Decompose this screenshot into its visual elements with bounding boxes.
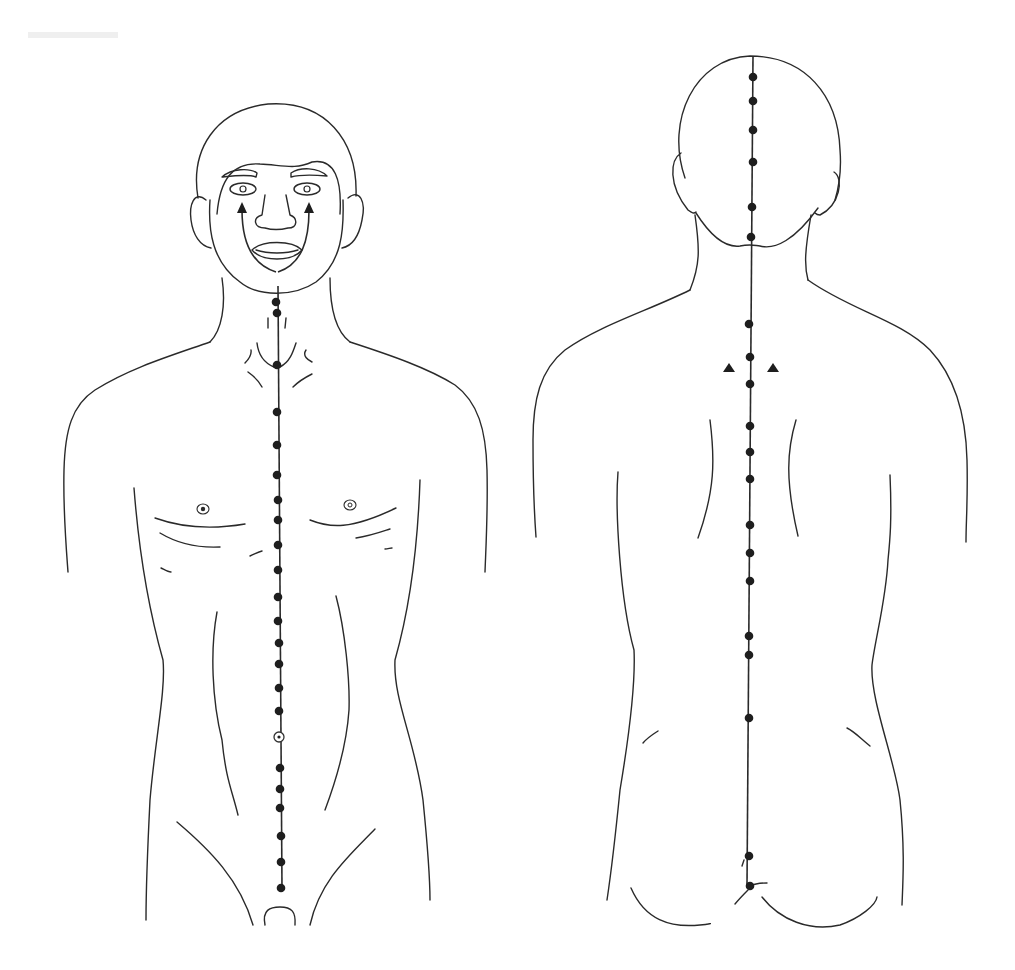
front-hairline: [217, 162, 340, 214]
acupoint-dot-icon: [749, 158, 758, 167]
acupoint-dot-icon: [276, 804, 285, 813]
acupoint-dot-icon: [748, 203, 757, 212]
nose: [256, 195, 296, 230]
left-nipple: [197, 504, 209, 514]
left-arrow-head-icon: [237, 202, 247, 213]
acupoint-dot-icon: [746, 380, 755, 389]
acupoint-dot-icon: [277, 884, 286, 893]
back-acupoints: [745, 73, 758, 891]
acupoint-dot-icon: [276, 764, 285, 773]
front-left-torso-side: [134, 488, 164, 920]
back-neck-right: [806, 215, 811, 280]
right-scapula-line: [789, 420, 798, 536]
left-ear: [191, 197, 211, 248]
acupoint-dot-icon: [747, 233, 756, 242]
acupoint-dot-icon: [745, 714, 754, 723]
right-inguinal-line: [310, 829, 375, 925]
left-eyebrow: [222, 170, 257, 177]
front-neck-right: [330, 278, 350, 342]
acupoint-dot-icon: [746, 475, 755, 484]
back-left-shoulder-arm: [533, 290, 690, 537]
acupoint-dot-icon: [745, 320, 754, 329]
acupoint-dot-icon: [273, 408, 282, 417]
abdomen-right-line: [325, 596, 349, 810]
acupoint-dot-icon: [274, 566, 283, 575]
back-left-ear: [673, 153, 696, 213]
left-hip-crease: [643, 731, 658, 743]
abdomen-left-line: [213, 612, 238, 815]
front-open-acupoints: [274, 732, 284, 742]
acupoint-dot-icon: [273, 471, 282, 480]
acupoint-dot-icon: [274, 496, 283, 505]
face-arrows: [237, 202, 314, 272]
acupoint-dot-icon: [746, 422, 755, 431]
acupoint-open-center-icon: [277, 735, 280, 738]
acupoint-dot-icon: [274, 516, 283, 525]
back-meridian-line: [747, 56, 753, 886]
right-arrow-head-icon: [304, 202, 314, 213]
left-inguinal-line: [177, 822, 253, 925]
right-eye: [294, 183, 320, 195]
left-eye: [230, 183, 256, 195]
acupoint-dot-icon: [275, 707, 284, 716]
right-nipple: [344, 500, 356, 510]
front-left-shoulder-arm: [64, 342, 210, 572]
acupoint-dot-icon: [745, 852, 754, 861]
acupoint-dot-icon: [745, 651, 754, 660]
acupoint-dot-icon: [272, 298, 281, 307]
right-ear: [342, 195, 363, 248]
acupoint-dot-icon: [273, 441, 282, 450]
triangle-marker-icon: [723, 363, 735, 372]
acupoint-dot-icon: [749, 126, 758, 135]
front-face-outline: [210, 200, 344, 293]
acupoint-dot-icon: [746, 577, 755, 586]
acupoint-dot-icon: [274, 541, 283, 550]
front-neck-left: [210, 278, 224, 342]
acupoint-dot-icon: [277, 858, 286, 867]
back-neck-left: [690, 215, 698, 290]
mouth: [252, 243, 302, 260]
acupoint-dot-icon: [273, 361, 282, 370]
acupoint-dot-icon: [273, 309, 282, 318]
acupoint-dot-icon: [275, 660, 284, 669]
acupoint-dot-icon: [274, 617, 283, 626]
back-left-torso-side: [607, 472, 634, 900]
front-figure: [64, 104, 487, 925]
left-scapula-line: [698, 420, 713, 538]
front-right-shoulder-arm: [350, 342, 487, 572]
left-buttock: [631, 888, 710, 926]
acupoint-dot-icon: [746, 549, 755, 558]
back-right-shoulder-arm: [808, 280, 967, 542]
acupoint-dot-icon: [749, 97, 758, 106]
groin-outline: [264, 907, 295, 925]
acupoint-dot-icon: [277, 832, 286, 841]
faint-bleed-through: [28, 32, 118, 38]
acupoint-dot-icon: [275, 684, 284, 693]
right-eyebrow: [291, 169, 327, 177]
acupoint-dot-icon: [275, 639, 284, 648]
right-hip-crease: [847, 728, 870, 746]
acupoint-dot-icon: [746, 353, 755, 362]
right-buttock: [762, 897, 877, 927]
back-right-torso-side: [872, 475, 903, 905]
acupoint-dot-icon: [274, 593, 283, 602]
front-meridian-line: [278, 286, 282, 888]
back-figure: [533, 56, 967, 927]
acupoint-diagram: [0, 0, 1015, 970]
acupoint-dot-icon: [746, 448, 755, 457]
acupoint-dot-icon: [746, 521, 755, 530]
acupoint-dot-icon: [745, 632, 754, 641]
back-right-ear: [815, 172, 839, 215]
acupoint-dot-icon: [749, 73, 758, 82]
front-head-outline: [197, 104, 357, 198]
front-right-torso-side: [395, 480, 430, 900]
back-skull-base: [696, 208, 818, 247]
acupoint-dot-icon: [276, 785, 285, 794]
back-head-outline: [679, 56, 841, 200]
acupoint-dot-icon: [746, 882, 755, 891]
triangle-marker-icon: [767, 363, 779, 372]
